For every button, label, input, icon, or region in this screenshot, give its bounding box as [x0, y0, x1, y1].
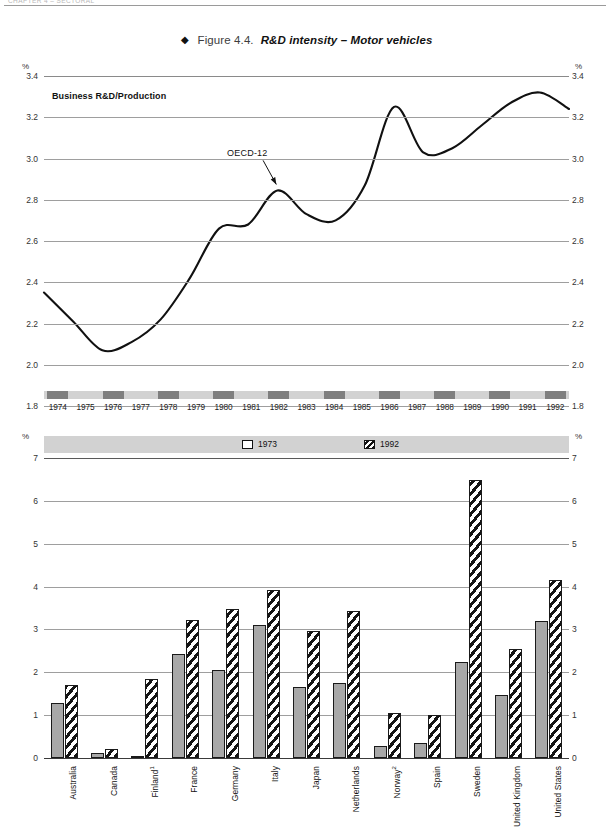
bar-1973	[253, 625, 266, 758]
bar-1973	[414, 743, 427, 758]
bar-1992	[347, 611, 360, 758]
bar-y-tick-label: 6	[572, 496, 594, 506]
year-tick-labels: 1974197519761977197819791980198119821983…	[44, 402, 569, 416]
bar-chart-panel: % % 1973 1992 76543210 76543210 Australi…	[0, 430, 613, 838]
diamond-icon: ◆	[181, 34, 189, 45]
year-band-segment	[379, 391, 400, 399]
bar-y-tick-label: 5	[16, 539, 38, 549]
bar-category-label: France	[189, 766, 199, 793]
line-y-tick-label: 2.2	[16, 319, 38, 329]
bar-category-label: Germany	[230, 766, 240, 801]
legend-label-1992: 1992	[380, 439, 399, 449]
line-y-tick-label: 2.6	[572, 236, 594, 246]
legend-swatch-1992	[364, 440, 375, 449]
bar-category-label: Italy	[270, 766, 280, 782]
year-band-segment	[103, 391, 124, 399]
bar-1973	[333, 683, 346, 758]
year-band-segment	[489, 391, 510, 399]
bar-category-label: Sweden	[472, 766, 482, 797]
figure-caption: R&D intensity – Motor vehicles	[261, 34, 433, 46]
bar-1973	[535, 621, 548, 758]
line-x-axis: 1974197519761977197819791980198119821983…	[0, 391, 613, 419]
bar-1992	[105, 749, 118, 758]
bar-1992	[186, 620, 199, 758]
bar-1973	[131, 756, 144, 758]
year-band-segment	[268, 391, 289, 399]
year-tick-label: 1987	[408, 402, 426, 412]
line-y-tick-label: 2.2	[572, 319, 594, 329]
annotation-arrow-icon	[44, 76, 569, 406]
line-y-tick-label: 2.6	[16, 236, 38, 246]
bar-1992	[509, 649, 522, 758]
bar-y-tick-label: 7	[572, 453, 594, 463]
bar-category-label: Spain	[432, 766, 442, 788]
bar-category-label: United Kingdom	[512, 766, 522, 827]
bar-1992	[307, 631, 320, 758]
annotation-arrow-head	[271, 177, 277, 184]
line-y-tick-label: 2.4	[572, 277, 594, 287]
bar-plot-area	[44, 458, 569, 758]
legend-label-1973: 1973	[258, 439, 277, 449]
year-tick-label: 1988	[436, 402, 454, 412]
year-tick-label: 1978	[159, 402, 177, 412]
line-y-unit-right: %	[575, 62, 582, 71]
year-tick-label: 1985	[353, 402, 371, 412]
bar-gridline	[44, 458, 569, 459]
bar-y-tick-label: 5	[572, 539, 594, 549]
year-band	[44, 391, 569, 399]
year-tick-label: 1975	[76, 402, 94, 412]
bar-y-tick-label: 2	[16, 667, 38, 677]
year-tick-label: 1977	[132, 402, 150, 412]
line-y-tick-label: 3.0	[16, 154, 38, 164]
bar-y-tick-label: 4	[16, 582, 38, 592]
bar-y-tick-label: 1	[572, 710, 594, 720]
legend-item-1973: 1973	[242, 439, 277, 449]
bar-y-unit-left: %	[22, 432, 29, 441]
bar-1992	[549, 580, 562, 758]
year-band-segment	[213, 391, 234, 399]
bar-category-label: Japan	[311, 766, 321, 789]
bar-1973	[91, 753, 104, 758]
year-tick-label: 1976	[104, 402, 122, 412]
year-tick-label: 1992	[546, 402, 564, 412]
year-band-segment	[47, 391, 68, 399]
year-tick-label: 1989	[463, 402, 481, 412]
line-y-tick-label: 3.2	[16, 112, 38, 122]
bar-1992	[428, 715, 441, 758]
year-band-segment	[545, 391, 566, 399]
line-y-tick-label: 3.0	[572, 154, 594, 164]
year-tick-label: 1981	[242, 402, 260, 412]
bar-gridline	[44, 587, 569, 588]
year-tick-label: 1983	[297, 402, 315, 412]
bar-gridline	[44, 544, 569, 545]
bar-1992	[469, 480, 482, 758]
bar-1992	[65, 685, 78, 758]
line-y-tick-label: 3.4	[16, 71, 38, 81]
bar-y-tick-label: 1	[16, 710, 38, 720]
bar-y-tick-label: 0	[16, 753, 38, 763]
year-tick-label: 1984	[325, 402, 343, 412]
year-tick-label: 1991	[519, 402, 537, 412]
bar-1973	[455, 662, 468, 758]
figure-title: ◆Figure 4.4.R&D intensity – Motor vehicl…	[0, 30, 613, 48]
line-y-tick-label: 3.2	[572, 112, 594, 122]
bar-1973	[212, 670, 225, 758]
bar-gridline	[44, 758, 569, 759]
year-band-segment	[158, 391, 179, 399]
bar-y-tick-label: 0	[572, 753, 594, 763]
figure-number: Figure 4.4.	[198, 34, 254, 46]
bar-1992	[388, 713, 401, 758]
bar-1973	[51, 703, 64, 758]
line-y-tick-label: 2.8	[16, 195, 38, 205]
bar-category-label: Finland1	[149, 766, 160, 798]
running-head: CHAPTER 4 – SECTORAL	[0, 0, 613, 8]
bar-y-unit-right: %	[575, 432, 582, 441]
year-tick-label: 1982	[270, 402, 288, 412]
line-y-unit-left: %	[22, 62, 29, 71]
line-y-tick-label: 2.4	[16, 277, 38, 287]
legend-swatch-1973	[242, 440, 253, 449]
bar-1992	[226, 609, 239, 758]
line-y-tick-label: 2.0	[572, 360, 594, 370]
bar-y-tick-label: 7	[16, 453, 38, 463]
line-y-tick-label: 2.0	[16, 360, 38, 370]
